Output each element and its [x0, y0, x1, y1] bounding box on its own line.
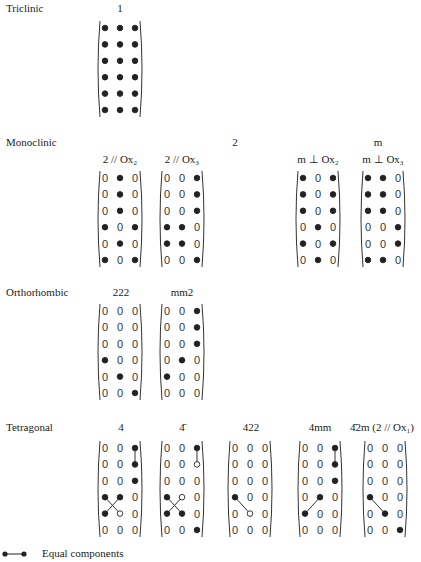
svg-text:0: 0 — [117, 442, 123, 454]
legend: Equal components — [42, 547, 124, 559]
equal-components-icon — [2, 549, 30, 559]
tensor-matrix: 00000000 — [295, 170, 341, 268]
svg-text:0: 0 — [132, 354, 138, 366]
svg-text:0: 0 — [102, 172, 108, 184]
svg-text:0: 0 — [132, 508, 138, 520]
matrix-subheader: m ⊥ Ox₂ — [297, 153, 338, 166]
matrix-subheader: 2 // Ox₂ — [103, 153, 137, 165]
svg-text:0: 0 — [164, 305, 170, 317]
svg-text:0: 0 — [232, 524, 238, 536]
svg-text:0: 0 — [164, 442, 170, 454]
svg-text:0: 0 — [332, 508, 338, 520]
svg-text:0: 0 — [179, 338, 185, 350]
point-group-label: 4mm — [309, 421, 332, 433]
svg-text:0: 0 — [330, 221, 336, 233]
svg-text:0: 0 — [194, 371, 200, 383]
svg-text:0: 0 — [317, 475, 323, 487]
svg-text:0: 0 — [365, 221, 371, 233]
tensor-matrix: 0000000000000 — [297, 440, 343, 538]
svg-text:0: 0 — [317, 442, 323, 454]
svg-text:0: 0 — [395, 205, 401, 217]
svg-text:0: 0 — [132, 238, 138, 250]
svg-text:0: 0 — [380, 238, 386, 250]
crystal-system-label: Triclinic — [6, 2, 44, 14]
svg-text:0: 0 — [102, 387, 108, 399]
svg-text:0: 0 — [102, 321, 108, 333]
svg-text:0: 0 — [102, 458, 108, 470]
svg-text:0: 0 — [367, 524, 373, 536]
point-group-label: 4̄2m (2 // Ox₁) — [350, 421, 414, 433]
svg-text:0: 0 — [179, 188, 185, 200]
svg-text:0: 0 — [330, 254, 336, 266]
svg-text:0: 0 — [300, 254, 306, 266]
svg-text:0: 0 — [395, 172, 401, 184]
svg-text:0: 0 — [117, 221, 123, 233]
tensor-matrix: 00000000000 — [159, 440, 205, 538]
svg-text:0: 0 — [397, 491, 403, 503]
svg-text:0: 0 — [132, 524, 138, 536]
svg-text:0: 0 — [102, 475, 108, 487]
svg-text:0: 0 — [194, 387, 200, 399]
svg-text:0: 0 — [164, 172, 170, 184]
svg-text:0: 0 — [179, 205, 185, 217]
svg-text:0: 0 — [397, 508, 403, 520]
svg-text:0: 0 — [315, 238, 321, 250]
crystal-system-label: Monoclinic — [6, 136, 57, 148]
svg-text:0: 0 — [247, 491, 253, 503]
svg-text:0: 0 — [164, 524, 170, 536]
svg-text:0: 0 — [302, 442, 308, 454]
svg-text:0: 0 — [117, 305, 123, 317]
tensor-matrix: 0000000000000 — [159, 303, 205, 401]
point-group-label: m — [374, 136, 383, 148]
svg-text:0: 0 — [194, 475, 200, 487]
svg-text:0: 0 — [179, 458, 185, 470]
svg-text:0: 0 — [317, 524, 323, 536]
svg-text:0: 0 — [164, 387, 170, 399]
tensor-matrix: 0000000000 — [159, 170, 205, 268]
svg-text:0: 0 — [117, 458, 123, 470]
svg-text:0: 0 — [164, 254, 170, 266]
svg-text:0: 0 — [194, 508, 200, 520]
legend-text: Equal components — [42, 547, 124, 559]
svg-text:0: 0 — [380, 221, 386, 233]
svg-text:0: 0 — [367, 442, 373, 454]
svg-text:0: 0 — [332, 524, 338, 536]
svg-text:0: 0 — [262, 458, 268, 470]
svg-text:0: 0 — [382, 475, 388, 487]
svg-text:0: 0 — [117, 254, 123, 266]
svg-text:0: 0 — [367, 508, 373, 520]
matrix-subheader: m ⊥ Ox₃ — [362, 153, 403, 166]
svg-text:0: 0 — [117, 338, 123, 350]
svg-text:0: 0 — [179, 371, 185, 383]
svg-text:0: 0 — [102, 338, 108, 350]
point-group-label: 222 — [113, 286, 130, 298]
svg-text:0: 0 — [332, 491, 338, 503]
svg-text:0: 0 — [132, 205, 138, 217]
svg-text:0: 0 — [179, 305, 185, 317]
svg-text:0: 0 — [365, 238, 371, 250]
svg-text:0: 0 — [315, 205, 321, 217]
svg-text:0: 0 — [179, 172, 185, 184]
crystal-system-label: Orthorhombic — [6, 286, 68, 298]
svg-text:0: 0 — [117, 387, 123, 399]
svg-text:0: 0 — [194, 238, 200, 250]
svg-text:0: 0 — [117, 354, 123, 366]
svg-text:0: 0 — [300, 221, 306, 233]
svg-text:0: 0 — [179, 524, 185, 536]
svg-text:0: 0 — [164, 205, 170, 217]
svg-text:0: 0 — [132, 172, 138, 184]
point-group-label: 4 — [118, 421, 124, 433]
svg-text:0: 0 — [382, 524, 388, 536]
svg-text:0: 0 — [302, 475, 308, 487]
svg-text:0: 0 — [232, 508, 238, 520]
svg-text:0: 0 — [102, 205, 108, 217]
svg-text:0: 0 — [367, 475, 373, 487]
svg-text:0: 0 — [194, 354, 200, 366]
svg-text:0: 0 — [132, 321, 138, 333]
svg-text:0: 0 — [102, 524, 108, 536]
svg-text:0: 0 — [232, 458, 238, 470]
svg-text:0: 0 — [315, 188, 321, 200]
svg-text:0: 0 — [397, 475, 403, 487]
svg-text:0: 0 — [395, 188, 401, 200]
point-group-label: mm2 — [171, 286, 194, 298]
